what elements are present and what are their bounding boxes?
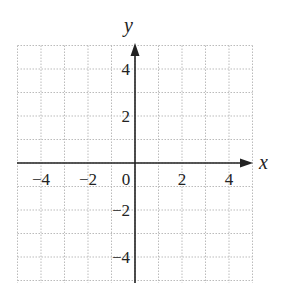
y-tick-label: 2 (122, 107, 131, 126)
x-axis-label: x (258, 151, 268, 173)
x-tick-label: 0 (122, 170, 131, 189)
x-tick-label: 2 (178, 170, 187, 189)
y-axis-label: y (122, 14, 133, 37)
y-tick-label: −4 (112, 248, 131, 267)
x-tick-label: −4 (32, 170, 51, 189)
x-tick-label: −2 (79, 170, 97, 189)
x-axis-arrow-icon (240, 159, 253, 168)
y-tick-label: 4 (122, 60, 131, 79)
coordinate-grid: x y −4−2024 42−2−4 (0, 0, 281, 283)
x-tick-label: 4 (225, 170, 234, 189)
y-axis-arrow-icon (131, 43, 140, 56)
y-tick-label: −2 (112, 201, 130, 220)
